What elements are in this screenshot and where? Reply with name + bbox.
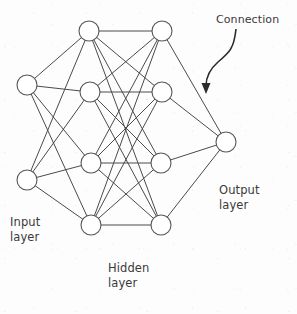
node-hidden1-3[interactable]	[81, 153, 101, 173]
edge-h1b-h2d	[90, 92, 161, 225]
output-layer-label-line1: Output	[219, 183, 260, 198]
edge-h1d-h2a	[91, 31, 162, 225]
input-layer-label-line1: Input	[10, 215, 40, 230]
edge-h1a-h2d	[89, 31, 161, 225]
node-input-2[interactable]	[17, 170, 37, 190]
node-output-1[interactable]	[216, 132, 236, 152]
node-hidden2-1[interactable]	[152, 21, 172, 41]
input-layer-label-line2: layer	[10, 230, 40, 245]
edge-i1-h1a	[27, 31, 89, 85]
edge-h2a-o1	[162, 31, 226, 142]
node-hidden2-3[interactable]	[151, 153, 171, 173]
edge-i1-h1d	[27, 85, 91, 225]
output-layer-label: Output layer	[219, 183, 260, 213]
node-hidden1-1[interactable]	[79, 21, 99, 41]
node-hidden1-4[interactable]	[81, 215, 101, 235]
edge-h1d-h2b	[91, 92, 162, 225]
output-layer-label-line2: layer	[219, 198, 260, 213]
node-input-1[interactable]	[17, 75, 37, 95]
edge-group-input-to-hidden1	[27, 31, 91, 225]
node-group-input	[17, 75, 37, 190]
node-hidden2-4[interactable]	[151, 215, 171, 235]
edge-h2b-o1	[162, 92, 226, 142]
edge-group-hidden2-to-output	[161, 31, 226, 225]
connection-arrowhead-icon	[202, 83, 211, 94]
edge-h2d-o1	[161, 142, 226, 225]
edge-h1a-h2c	[89, 31, 161, 163]
edge-h1b-h2c	[90, 92, 161, 163]
hidden-layer-label-line1: Hidden	[108, 261, 149, 276]
hidden-layer-label: Hidden layer	[108, 261, 149, 291]
edge-h1c-h2a	[91, 31, 162, 163]
neural-network-diagram: Input layer Hidden layer Output layer Co…	[0, 0, 297, 314]
connection-label: Connection	[216, 12, 279, 27]
node-hidden2-2[interactable]	[152, 82, 172, 102]
node-group-output	[216, 132, 236, 152]
connection-pointer-curve	[206, 29, 236, 86]
edge-group-hidden1-to-hidden2	[89, 31, 162, 225]
input-layer-label: Input layer	[10, 215, 40, 245]
connection-pointer	[202, 29, 237, 94]
node-hidden1-2[interactable]	[80, 82, 100, 102]
hidden-layer-label-line2: layer	[108, 276, 149, 291]
